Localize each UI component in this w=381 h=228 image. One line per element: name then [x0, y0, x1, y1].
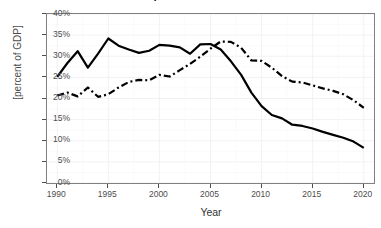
chart-title: Bilateral trade as percent of Northern a…: [46, 0, 376, 1]
x-tick-label: 1990: [36, 189, 76, 199]
y-tick-mark: [42, 140, 46, 141]
y-tick-mark: [42, 76, 46, 77]
y-tick-mark: [42, 182, 46, 183]
major-gridlines: [47, 14, 374, 183]
chart-figure: Bilateral trade as percent of Northern a…: [0, 0, 381, 228]
x-tick-mark: [312, 184, 313, 188]
x-tick-mark: [363, 184, 364, 188]
plot-area: [47, 14, 374, 183]
y-tick-mark: [42, 161, 46, 162]
x-tick-label: 2020: [343, 189, 381, 199]
x-tick-label: 2005: [190, 189, 230, 199]
y-tick-mark: [42, 55, 46, 56]
x-tick-label: 1995: [87, 189, 127, 199]
x-tick-label: 2000: [138, 189, 178, 199]
y-tick-mark: [42, 13, 46, 14]
plot-panel: [46, 13, 375, 184]
y-tick-mark: [42, 119, 46, 120]
x-tick-label: 2010: [241, 189, 281, 199]
x-tick-mark: [261, 184, 262, 188]
y-axis-label: [percent of GDP]: [12, 0, 23, 148]
x-tick-label: 2015: [292, 189, 332, 199]
y-tick-mark: [42, 34, 46, 35]
x-axis-label: Year: [46, 206, 376, 218]
x-tick-mark: [107, 184, 108, 188]
x-tick-mark: [56, 184, 57, 188]
y-tick-mark: [42, 98, 46, 99]
x-tick-mark: [158, 184, 159, 188]
x-tick-mark: [210, 184, 211, 188]
